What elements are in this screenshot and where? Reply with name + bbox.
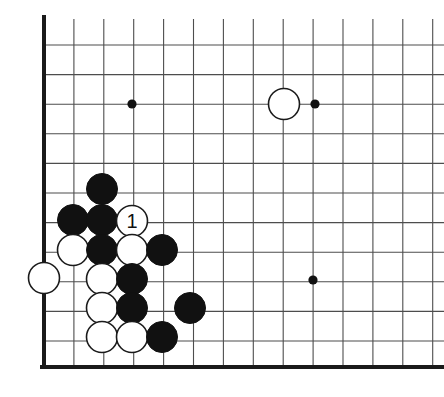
black-stone[interactable] xyxy=(147,322,178,353)
black-stone[interactable] xyxy=(87,205,118,236)
black-stone[interactable] xyxy=(117,293,148,324)
white-stone[interactable] xyxy=(87,322,118,353)
white-stone[interactable] xyxy=(117,322,148,353)
black-stone[interactable] xyxy=(87,235,118,266)
stone-white[interactable] xyxy=(58,235,89,266)
stone-white[interactable] xyxy=(87,264,118,295)
stone-white[interactable] xyxy=(269,89,300,120)
stone-black[interactable] xyxy=(87,235,118,266)
stone-black[interactable] xyxy=(117,293,148,324)
move-number-label: 1 xyxy=(126,210,137,232)
stone-black[interactable] xyxy=(147,322,178,353)
stone-black[interactable] xyxy=(58,205,89,236)
white-stone[interactable] xyxy=(87,293,118,324)
board-background xyxy=(0,0,444,397)
stone-white[interactable]: 1 xyxy=(117,206,148,237)
white-stone[interactable] xyxy=(269,89,300,120)
stone-black[interactable] xyxy=(175,293,206,324)
black-stone[interactable] xyxy=(87,174,118,205)
stone-white[interactable] xyxy=(117,235,148,266)
black-stone[interactable] xyxy=(175,293,206,324)
stone-black[interactable] xyxy=(87,174,118,205)
white-stone[interactable] xyxy=(29,263,60,294)
hoshi-upper-right xyxy=(310,99,319,108)
black-stone[interactable] xyxy=(147,235,178,266)
stone-white[interactable] xyxy=(29,263,60,294)
hoshi-upper-left xyxy=(127,99,136,108)
stone-black[interactable] xyxy=(147,235,178,266)
white-stone[interactable] xyxy=(87,264,118,295)
stone-white[interactable] xyxy=(117,322,148,353)
stone-black[interactable] xyxy=(87,205,118,236)
goban-canvas[interactable]: 1 xyxy=(0,0,444,397)
white-stone[interactable] xyxy=(117,235,148,266)
hoshi-lower-right xyxy=(308,275,317,284)
stone-black[interactable] xyxy=(117,264,148,295)
stone-white[interactable] xyxy=(87,293,118,324)
stone-white[interactable] xyxy=(87,322,118,353)
black-stone[interactable] xyxy=(117,264,148,295)
go-board-diagram: 1 xyxy=(0,0,444,397)
white-stone[interactable] xyxy=(58,235,89,266)
black-stone[interactable] xyxy=(58,205,89,236)
